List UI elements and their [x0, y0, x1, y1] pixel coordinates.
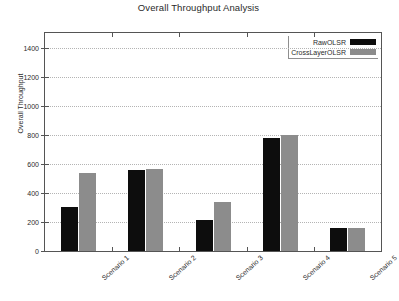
bar-rawolsr	[330, 228, 347, 251]
bar-crosslayerolsr	[146, 169, 163, 251]
y-axis-tick-inner	[45, 164, 49, 165]
y-axis-tick-label: 800	[27, 131, 39, 138]
bar-crosslayerolsr	[348, 228, 365, 251]
bar-crosslayerolsr	[281, 135, 298, 251]
x-axis-tick-top	[179, 33, 180, 37]
x-axis-tick-bottom	[247, 247, 248, 251]
chart-title: Overall Throughput Analysis	[0, 2, 397, 13]
gridline	[45, 48, 381, 49]
y-axis-tick-label: 600	[27, 160, 39, 167]
bar-rawolsr	[128, 170, 145, 251]
y-axis-tick-inner	[45, 251, 49, 252]
y-axis-tick-label: 200	[27, 218, 39, 225]
y-axis-tick-label: 0	[35, 248, 39, 255]
x-axis-tick-top	[112, 33, 113, 37]
gridline	[45, 164, 381, 165]
bar-rawolsr	[196, 220, 213, 251]
legend-item-rawolsr: RawOLSR	[291, 37, 376, 47]
y-axis-tick-inner	[45, 193, 49, 194]
legend-swatch-black	[350, 39, 376, 45]
x-axis-tick-bottom	[112, 247, 113, 251]
y-axis-tick-inner	[45, 135, 49, 136]
gridline	[45, 77, 381, 78]
y-axis-tick-inner	[45, 77, 49, 78]
bar-rawolsr	[263, 138, 280, 251]
y-axis-tick-label: 1000	[23, 102, 39, 109]
x-axis-tick-label: Scenario 5	[369, 254, 399, 282]
y-axis-tick-inner	[45, 222, 49, 223]
x-axis-tick-bottom	[179, 247, 180, 251]
bar-crosslayerolsr	[79, 173, 96, 251]
gridline	[45, 135, 381, 136]
bar-rawolsr	[61, 207, 78, 251]
y-axis-tick-label: 1200	[23, 73, 39, 80]
legend-swatch-gray	[350, 49, 376, 55]
x-axis-tick-top	[247, 33, 248, 37]
x-axis-tick-label: Scenario 1	[100, 254, 130, 282]
y-axis-tick-inner	[45, 106, 49, 107]
bar-crosslayerolsr	[214, 202, 231, 251]
x-axis-tick-bottom	[314, 247, 315, 251]
y-axis-tick-inner	[45, 48, 49, 49]
plot-area: RawOLSR CrossLayerOLSR 02004006008001000…	[44, 32, 382, 252]
x-axis-tick-top	[314, 33, 315, 37]
legend-label-rawolsr: RawOLSR	[313, 39, 346, 46]
x-axis-tick-label: Scenario 2	[167, 254, 197, 282]
x-axis-tick-label: Scenario 3	[235, 254, 265, 282]
gridline	[45, 106, 381, 107]
x-axis-labels: Scenario 1Scenario 2Scenario 3Scenario 4…	[44, 254, 382, 300]
legend-label-crosslayerolsr: CrossLayerOLSR	[291, 49, 346, 56]
y-axis-tick-label: 400	[27, 189, 39, 196]
x-axis-tick-label: Scenario 4	[302, 254, 332, 282]
y-axis-tick-label: 1400	[23, 44, 39, 51]
